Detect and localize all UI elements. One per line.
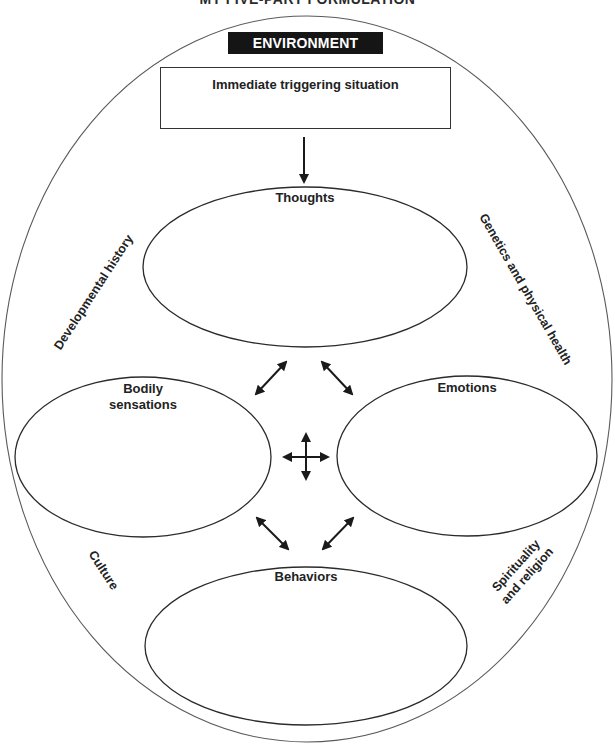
emotions-label: Emotions <box>437 380 496 396</box>
thoughts-label: Thoughts <box>275 190 334 206</box>
trigger-situation-box[interactable]: Immediate triggering situation <box>160 67 451 129</box>
thoughts-ellipse[interactable] <box>143 187 467 347</box>
bodily-label-line1: Bodily <box>109 381 177 397</box>
bodily-sensations-label: Bodily sensations <box>109 381 177 413</box>
trigger-situation-label: Immediate triggering situation <box>161 77 450 92</box>
behaviors-ellipse[interactable] <box>145 567 467 725</box>
emotions-ellipse[interactable] <box>337 376 597 536</box>
five-part-formulation-diagram: MY FIVE-PART FORMULATION <box>0 0 615 750</box>
environment-header: ENVIRONMENT <box>228 32 383 54</box>
thoughts-emotions-double-arrow-icon <box>322 362 352 394</box>
thoughts-bodily-double-arrow-icon <box>256 362 286 394</box>
behaviors-label: Behaviors <box>275 569 338 585</box>
environment-label: ENVIRONMENT <box>253 35 359 51</box>
bodily-label-line2: sensations <box>109 397 177 413</box>
bodily-behaviors-double-arrow-icon <box>257 518 288 549</box>
center-cross-arrows-icon <box>284 434 328 479</box>
emotions-behaviors-double-arrow-icon <box>323 518 353 549</box>
